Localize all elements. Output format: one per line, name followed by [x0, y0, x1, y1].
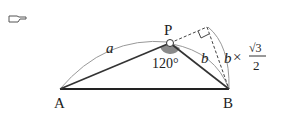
label-point-a: A: [54, 95, 65, 111]
right-angle-mark: [198, 31, 209, 38]
label-angle-p: 120°: [152, 56, 179, 71]
pointing-hand-icon: [9, 16, 26, 22]
label-point-b: B: [223, 95, 233, 111]
label-times: ×: [233, 49, 241, 65]
label-denominator: 2: [253, 58, 260, 73]
side-pb: [170, 43, 229, 89]
label-side-b: b: [201, 50, 209, 66]
extension-ap-dashed: [170, 27, 207, 43]
label-point-p: P: [164, 22, 172, 38]
point-p-marker: [167, 40, 174, 47]
label-sqrt3: √3: [249, 41, 262, 55]
label-height-b: b: [224, 50, 232, 66]
triangle-diagram: a P 120° b b × √3 2 A B: [0, 0, 284, 121]
label-side-a: a: [106, 40, 114, 56]
